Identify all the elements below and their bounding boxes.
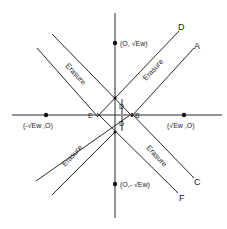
label-c: C — [194, 177, 201, 187]
distance-label-lower: D — [119, 120, 124, 127]
erasure-label-lower-right: Erasure — [145, 143, 169, 168]
label-d: D — [178, 22, 185, 32]
label-point-bottom: (O,- √Ew) — [120, 181, 150, 189]
point-right — [182, 113, 186, 117]
label-point-top: (O, √Ew) — [120, 40, 148, 48]
label-e: E — [88, 112, 93, 119]
line-upper-left-outer — [37, 48, 98, 117]
label-point-left: (-√Ew ,O) — [23, 122, 53, 130]
point-top — [113, 41, 117, 45]
label-f: F — [179, 193, 185, 203]
signal-space-diagram: D D (O, √Ew) (O,- √Ew) (-√Ew ,O) (√Ew ,O… — [0, 0, 227, 229]
label-point-right: (√Ew ,O) — [167, 122, 195, 130]
line-a — [131, 48, 194, 117]
distance-label-upper: D — [119, 103, 124, 110]
label-b: B — [135, 112, 140, 119]
label-a: A — [194, 41, 200, 51]
intersection-bottom — [114, 131, 117, 134]
erasure-label-lower-left: Erasure — [60, 143, 84, 168]
erasure-label-upper-right: Erasure — [141, 57, 165, 82]
point-bottom — [113, 182, 117, 186]
point-left — [44, 113, 48, 117]
intersection-top — [114, 97, 117, 100]
